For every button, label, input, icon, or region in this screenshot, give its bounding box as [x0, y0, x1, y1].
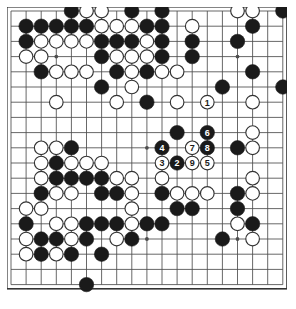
black-stone[interactable]	[155, 34, 169, 48]
white-stone[interactable]	[34, 171, 48, 185]
white-stone[interactable]	[65, 35, 79, 49]
white-stone[interactable]	[201, 187, 215, 201]
black-stone[interactable]	[215, 80, 229, 94]
black-stone[interactable]	[230, 186, 244, 200]
white-stone[interactable]	[80, 156, 94, 170]
white-stone[interactable]	[34, 202, 48, 216]
white-stone[interactable]	[110, 232, 124, 246]
white-stone[interactable]	[170, 95, 184, 109]
black-stone[interactable]	[140, 65, 154, 79]
black-stone[interactable]	[125, 34, 139, 48]
black-stone[interactable]	[79, 171, 93, 185]
black-stone[interactable]	[170, 125, 184, 139]
black-stone[interactable]	[110, 34, 124, 48]
white-stone[interactable]	[110, 171, 124, 185]
white-stone[interactable]	[246, 126, 260, 140]
black-stone[interactable]	[64, 171, 78, 185]
white-stone[interactable]	[19, 50, 33, 64]
black-stone[interactable]	[79, 232, 93, 246]
black-stone[interactable]	[140, 19, 154, 33]
black-stone[interactable]	[64, 247, 78, 261]
black-stone[interactable]	[245, 19, 259, 33]
black-stone[interactable]	[185, 201, 199, 215]
black-stone[interactable]	[94, 49, 108, 63]
white-stone[interactable]	[246, 171, 260, 185]
white-stone[interactable]	[125, 202, 139, 216]
black-stone[interactable]	[245, 65, 259, 79]
white-stone[interactable]	[246, 141, 260, 155]
white-stone[interactable]	[110, 50, 124, 64]
white-stone[interactable]	[34, 156, 48, 170]
black-stone[interactable]	[64, 7, 78, 18]
black-stone[interactable]	[34, 65, 48, 79]
black-stone[interactable]	[34, 19, 48, 33]
black-stone[interactable]	[49, 232, 63, 246]
black-stone[interactable]	[79, 19, 93, 33]
black-stone[interactable]	[34, 186, 48, 200]
white-stone[interactable]	[155, 65, 169, 79]
white-stone[interactable]	[50, 217, 64, 231]
white-stone[interactable]	[125, 80, 139, 94]
black-stone[interactable]	[94, 171, 108, 185]
black-stone[interactable]	[155, 19, 169, 33]
move-marker[interactable]: 8	[200, 141, 214, 155]
stones-layer[interactable]	[19, 7, 287, 292]
white-stone[interactable]	[65, 156, 79, 170]
white-stone[interactable]	[50, 187, 64, 201]
black-stone[interactable]	[276, 7, 287, 18]
black-stone[interactable]	[19, 34, 33, 48]
black-stone[interactable]	[34, 232, 48, 246]
black-stone[interactable]	[19, 19, 33, 33]
black-stone[interactable]	[64, 141, 78, 155]
white-stone[interactable]	[170, 187, 184, 201]
move-marker[interactable]: 6	[200, 125, 214, 139]
black-stone[interactable]	[110, 186, 124, 200]
white-stone[interactable]	[19, 202, 33, 216]
white-stone[interactable]	[95, 7, 109, 18]
black-stone[interactable]	[155, 186, 169, 200]
white-stone[interactable]	[246, 232, 260, 246]
white-stone[interactable]	[50, 141, 64, 155]
white-stone[interactable]	[125, 50, 139, 64]
black-stone[interactable]	[276, 80, 287, 94]
white-stone[interactable]	[125, 65, 139, 79]
white-stone[interactable]	[125, 171, 139, 185]
white-stone[interactable]	[50, 95, 64, 109]
white-stone[interactable]	[80, 35, 94, 49]
white-stone[interactable]	[231, 7, 245, 18]
black-stone[interactable]	[34, 247, 48, 261]
black-stone[interactable]	[140, 217, 154, 231]
white-stone[interactable]	[65, 187, 79, 201]
white-stone[interactable]	[185, 187, 199, 201]
white-stone[interactable]	[19, 247, 33, 261]
black-stone[interactable]	[110, 65, 124, 79]
white-stone[interactable]	[110, 95, 124, 109]
board-canvas[interactable]: 123456789	[7, 7, 287, 295]
white-stone[interactable]	[80, 7, 94, 18]
white-stone[interactable]	[34, 35, 48, 49]
white-stone[interactable]	[125, 19, 139, 33]
white-stone[interactable]	[155, 171, 169, 185]
black-stone[interactable]	[94, 80, 108, 94]
black-stone[interactable]	[94, 34, 108, 48]
go-board[interactable]: 123456789	[7, 7, 287, 295]
white-stone[interactable]	[65, 232, 79, 246]
move-marker[interactable]: 5	[201, 156, 215, 170]
white-stone[interactable]	[170, 65, 184, 79]
black-stone[interactable]	[110, 217, 124, 231]
white-stone[interactable]	[50, 65, 64, 79]
black-stone[interactable]	[19, 217, 33, 231]
move-marker[interactable]: 9	[185, 156, 199, 170]
white-stone[interactable]	[140, 35, 154, 49]
white-stone[interactable]	[34, 141, 48, 155]
move-marker[interactable]: 2	[170, 156, 184, 170]
black-stone[interactable]	[49, 171, 63, 185]
black-stone[interactable]	[155, 7, 169, 18]
black-stone[interactable]	[185, 34, 199, 48]
white-stone[interactable]	[95, 19, 109, 33]
black-stone[interactable]	[94, 186, 108, 200]
white-stone[interactable]	[80, 65, 94, 79]
white-stone[interactable]	[125, 217, 139, 231]
black-stone[interactable]	[49, 156, 63, 170]
move-marker[interactable]: 3	[155, 156, 169, 170]
